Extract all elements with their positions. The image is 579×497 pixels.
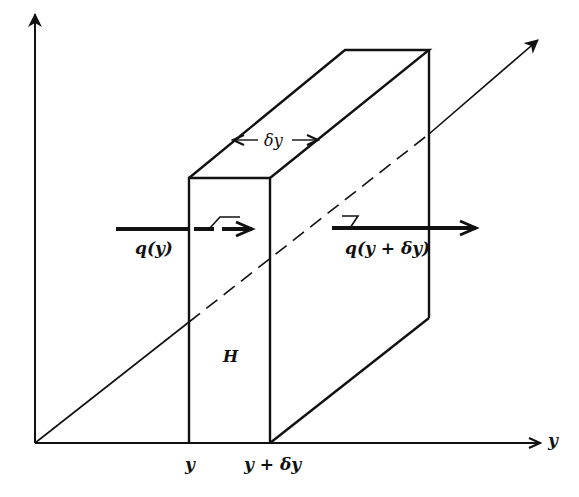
horizontal-axis-label: y [547, 430, 559, 450]
box-bottom-right-edge [270, 318, 429, 443]
control-volume-diagram: δy q(y) q(y + δy) H y y + δy y [0, 0, 579, 497]
depth-axis-back [429, 40, 538, 134]
tick-label-y-plus-dy: y + δy [243, 454, 302, 474]
box-top-face [189, 50, 429, 178]
flux-in-label: q(y) [135, 238, 173, 258]
flux-out-label: q(y + δy) [345, 238, 430, 258]
depth-axis-front [35, 322, 189, 443]
tick-label-y: y [184, 454, 196, 474]
height-label: H [222, 347, 239, 366]
width-label: δy [264, 131, 284, 150]
